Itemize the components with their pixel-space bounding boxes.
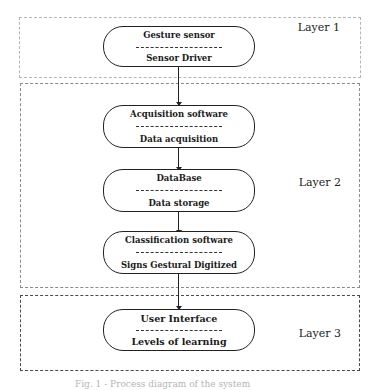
node-gesture-sensor: Gesture sensor Sensor Driver — [103, 26, 255, 67]
node-classification-software: Classification software Signs Gestural D… — [103, 231, 255, 274]
node-subtitle: Signs Gestural Digitized — [104, 261, 254, 270]
node-database: DataBase Data storage — [103, 169, 255, 212]
node-subtitle: Data acquisition — [104, 135, 254, 144]
arrow-classification-to-ui — [178, 274, 179, 309]
node-subtitle: Sensor Driver — [104, 54, 254, 63]
node-subtitle: Data storage — [104, 199, 254, 208]
node-separator — [136, 252, 222, 253]
node-separator — [136, 330, 222, 331]
node-separator — [136, 47, 222, 48]
node-subtitle: Levels of learning — [104, 337, 254, 347]
node-title: Classification software — [104, 236, 254, 245]
node-separator — [136, 190, 222, 191]
node-title: Acquisition software — [104, 110, 254, 119]
arrow-database-to-classification — [178, 211, 179, 233]
arrow-sensor-to-acquisition — [178, 67, 179, 105]
figure-caption: Fig. 1 - Process diagram of the system — [75, 379, 250, 389]
node-separator — [136, 126, 222, 127]
node-title: Gesture sensor — [104, 31, 254, 40]
layer-1-label: Layer 1 — [298, 21, 340, 34]
node-title: User Interface — [104, 314, 254, 324]
arrow-acquisition-to-database — [178, 148, 179, 170]
layer-3-label: Layer 3 — [299, 327, 341, 340]
node-acquisition-software: Acquisition software Data acquisition — [103, 105, 255, 148]
node-title: DataBase — [104, 174, 254, 183]
node-user-interface: User Interface Levels of learning — [103, 309, 255, 351]
layer-2-label: Layer 2 — [299, 176, 341, 189]
